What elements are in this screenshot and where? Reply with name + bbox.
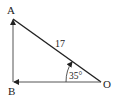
hypotenuse-length-label: 17 bbox=[55, 38, 65, 49]
vertex-label-O: O bbox=[103, 78, 111, 90]
triangle-diagram: A B O 17 35° bbox=[0, 0, 120, 100]
angle-label: 35° bbox=[69, 71, 83, 81]
vertex-label-A: A bbox=[7, 4, 15, 16]
hypotenuse-AO bbox=[13, 19, 101, 82]
vertex-label-B: B bbox=[8, 85, 15, 97]
